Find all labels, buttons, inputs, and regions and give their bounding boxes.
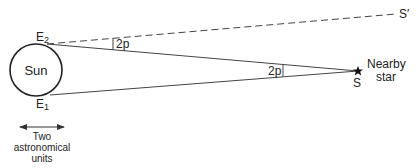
scale-bar-label-line2: astronomical xyxy=(14,142,71,153)
s-prime-label: S′ xyxy=(399,7,410,21)
star-name-line1: Nearby xyxy=(367,57,406,71)
angle-label-near-earth: 2p xyxy=(116,37,130,51)
e1-label: E1 xyxy=(36,97,49,112)
scale-bar-label-line1: Two xyxy=(33,131,52,142)
star-name-line2: star xyxy=(376,70,396,84)
parallax-diagram: Sun 2p 2p E2 E1 S′ S Nearby star Two ast… xyxy=(0,0,419,168)
star-point-label: S xyxy=(353,76,361,90)
sightline-e2-to-star xyxy=(47,44,358,71)
scale-bar-label-line3: units xyxy=(31,153,52,164)
angle-label-near-star: 2p xyxy=(268,64,282,78)
sun-label: Sun xyxy=(24,63,47,78)
dashed-line-to-s-prime xyxy=(47,14,396,44)
e2-label: E2 xyxy=(36,30,49,45)
sightline-e1-to-star xyxy=(50,71,358,95)
